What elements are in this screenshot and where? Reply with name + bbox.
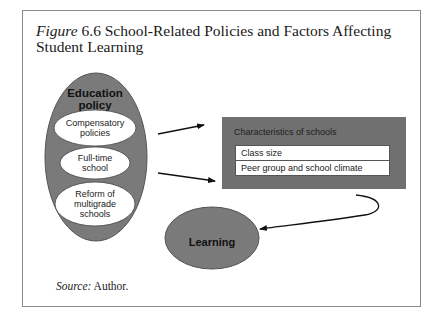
arrow-box-to-learning: [260, 195, 379, 229]
characteristics-row-class-size: Class size: [235, 145, 390, 161]
learning-label: Learning: [166, 236, 258, 248]
policy-item-full-time: Full-time school: [55, 153, 135, 173]
arrow-policy-to-box-2: [158, 173, 215, 181]
characteristics-row-peer-group: Peer group and school climate: [235, 160, 390, 176]
education-policy-heading: Education policy: [55, 87, 135, 111]
policy-item-compensatory: Compensatory policies: [55, 118, 135, 138]
arrow-policy-to-box-1: [158, 125, 204, 134]
characteristics-heading: Characteristics of schools: [234, 127, 337, 137]
characteristics-box: Characteristics of schools Class size Pe…: [222, 117, 406, 189]
policy-item-reform: Reform of multigrade schools: [55, 189, 135, 219]
source-note: Source: Author.: [56, 280, 128, 292]
source-label: Source:: [56, 280, 91, 292]
source-value: Author.: [94, 280, 129, 292]
